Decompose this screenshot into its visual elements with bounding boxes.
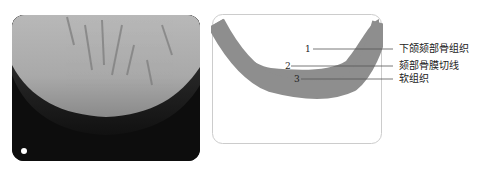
callout-number-2: 2 [285,61,291,71]
callout-label-chin-periosteum-line: 颏部骨膜切线 [399,60,459,72]
callout-label-mandible-chin-bone: 下颌颏部骨组织 [399,43,469,55]
leader-lines [0,0,481,170]
callout-number-1: 1 [305,44,311,54]
callout-number-3: 3 [294,74,300,84]
callout-label-soft-tissue: 软组织 [399,73,429,85]
